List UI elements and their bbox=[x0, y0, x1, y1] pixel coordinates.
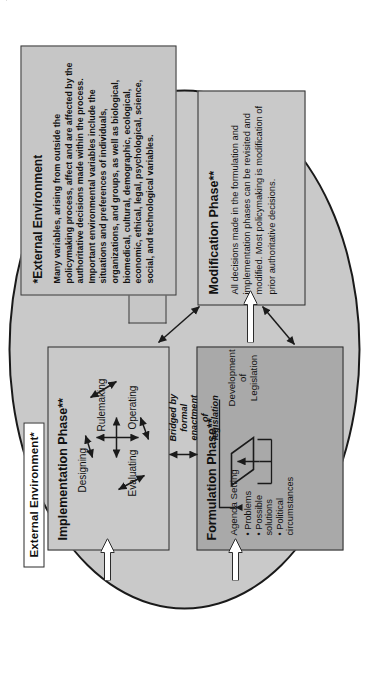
bridge-line: formal bbox=[178, 394, 189, 442]
modification-phase-title: Modification Phase** bbox=[206, 170, 220, 294]
modification-to-environment-arrow bbox=[243, 290, 257, 342]
bridge-line: legislation bbox=[209, 394, 220, 442]
external-environment-callout: *External Environment Many variables, ar… bbox=[20, 45, 176, 295]
diagram-canvas: External Environment* Formulation Phase*… bbox=[0, 0, 367, 687]
environment-to-formulation-arrow bbox=[228, 538, 242, 580]
modification-phase-body: All decisions made in the formulation an… bbox=[228, 98, 277, 294]
modification-phase-box[interactable]: Modification Phase** All decisions made … bbox=[197, 90, 305, 305]
external-environment-callout-tail bbox=[128, 293, 166, 323]
formulation-internal-diagram bbox=[197, 345, 344, 549]
bridge-line: Bridged by bbox=[167, 394, 178, 442]
formulation-modification-connector bbox=[258, 300, 298, 348]
external-environment-callout-body: Many variables, arising from outside the… bbox=[51, 55, 155, 283]
external-environment-label: External Environment* bbox=[23, 422, 44, 567]
implementation-phase-box[interactable]: Implementation Phase** Designing Rulemak… bbox=[47, 346, 169, 550]
bridge-line: enactment bbox=[188, 394, 199, 442]
bridge-line: of bbox=[199, 394, 210, 442]
environment-to-implementation-arrow bbox=[100, 538, 114, 580]
implementation-cycle-arrows bbox=[48, 345, 170, 549]
formulation-phase-box[interactable]: Formulation Phase** Agenda Setting • Pro… bbox=[196, 346, 343, 550]
formulation-implementation-connector bbox=[166, 446, 200, 462]
external-environment-callout-title: *External Environment bbox=[30, 154, 44, 283]
bridge-legislation-label: Bridged by formal enactment of legislati… bbox=[167, 394, 220, 442]
